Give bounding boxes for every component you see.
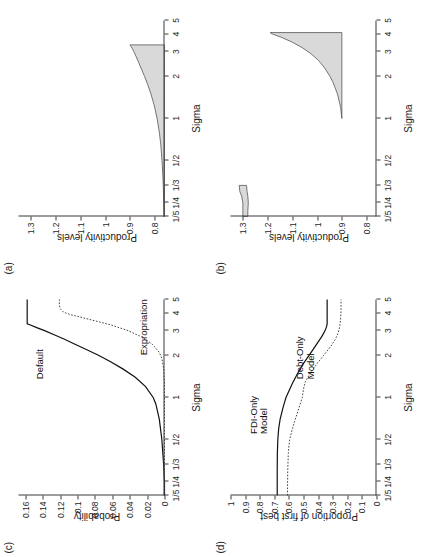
- y-tick: [242, 216, 243, 220]
- panel-a-y-title: Productivity levels: [24, 232, 170, 243]
- y-tick: [77, 495, 78, 499]
- x-tick: [164, 298, 168, 299]
- panel-b-y-axis: [230, 215, 376, 216]
- x-tick: [164, 480, 168, 481]
- panel-d-plot: FDI-Only Model Debt-Only Model 1/51/41/3…: [230, 299, 376, 495]
- panel-d: (d) FDI-Only Model Debt-Only Model 1/51/…: [212, 279, 423, 557]
- x-tick: [164, 438, 168, 439]
- y-tick: [105, 216, 106, 220]
- y-tick: [60, 495, 61, 499]
- y-tick: [129, 495, 130, 499]
- y-tick-label: 1: [225, 501, 235, 506]
- series-line: [277, 299, 327, 495]
- x-tick-label: 1/4: [170, 476, 180, 488]
- x-tick-label: 2: [170, 352, 180, 357]
- y-tick: [288, 495, 289, 499]
- x-tick: [164, 463, 168, 464]
- x-tick: [164, 159, 168, 160]
- panel-d-tag: (d): [214, 541, 225, 553]
- panel-a: (a) 1/51/41/31/2123450.80.911.11.21.3 Si…: [0, 0, 211, 278]
- x-tick: [164, 354, 168, 355]
- x-tick-label: 1/5: [382, 489, 392, 501]
- x-tick: [164, 201, 168, 202]
- x-tick: [376, 184, 380, 185]
- x-tick-label: 2: [170, 73, 180, 78]
- x-tick: [164, 184, 168, 185]
- y-tick: [25, 495, 26, 499]
- y-tick-label: 0: [159, 501, 169, 506]
- x-tick-label: 3: [382, 328, 392, 333]
- x-tick: [164, 50, 168, 51]
- x-tick-label: 1/5: [382, 210, 392, 222]
- y-tick: [55, 216, 56, 220]
- y-tick: [80, 216, 81, 220]
- y-tick: [94, 495, 95, 499]
- x-tick-label: 5: [170, 18, 180, 23]
- curve-label-debt-only-model: Debt-Only Model: [294, 336, 315, 379]
- x-tick: [376, 159, 380, 160]
- y-tick-label: 0: [371, 501, 381, 506]
- y-tick: [347, 495, 348, 499]
- y-tick: [164, 495, 165, 499]
- x-tick-label: 2: [382, 73, 392, 78]
- x-tick-label: 1/4: [382, 197, 392, 209]
- x-tick-label: 4: [382, 31, 392, 36]
- x-tick-label: 2: [382, 352, 392, 357]
- panel-b-y-title: Productivity levels: [236, 232, 382, 243]
- x-tick: [164, 117, 168, 118]
- y-tick: [292, 216, 293, 220]
- panel-b: (b) 1/51/41/31/2123450.80.911.11.21.3 Si…: [212, 0, 423, 278]
- x-tick: [376, 480, 380, 481]
- figure-canvas: (a) 1/51/41/31/2123450.80.911.11.21.3 Si…: [0, 0, 423, 557]
- x-tick: [164, 396, 168, 397]
- x-tick: [164, 33, 168, 34]
- x-tick-label: 1: [170, 395, 180, 400]
- x-tick: [376, 354, 380, 355]
- y-tick-label: 1: [312, 222, 322, 227]
- y-tick: [317, 216, 318, 220]
- curve-label-fdi-only-model: FDI-Only Model: [248, 395, 269, 433]
- x-tick-label: 1: [382, 116, 392, 121]
- x-tick-label: 1/2: [170, 433, 180, 445]
- x-tick-label: 5: [170, 297, 180, 302]
- x-tick-label: 1/3: [170, 179, 180, 191]
- x-tick: [376, 312, 380, 313]
- panel-a-svg: [18, 20, 164, 216]
- y-tick: [154, 216, 155, 220]
- y-tick: [303, 495, 304, 499]
- y-tick: [332, 495, 333, 499]
- x-tick-label: 3: [170, 49, 180, 54]
- x-tick: [376, 463, 380, 464]
- y-tick: [245, 495, 246, 499]
- y-tick: [147, 495, 148, 499]
- x-tick-label: 1: [382, 395, 392, 400]
- x-tick-label: 1/3: [382, 179, 392, 191]
- shaded-region: [239, 185, 248, 216]
- y-tick-label: 1: [100, 222, 110, 227]
- x-tick-label: 5: [382, 18, 392, 23]
- y-tick: [259, 495, 260, 499]
- x-tick-label: 1/2: [170, 154, 180, 166]
- panel-a-plot: 1/51/41/31/2123450.80.911.11.21.3: [18, 20, 164, 216]
- panel-c-plot: Default Expropriation 1/51/41/31/2123450…: [18, 299, 164, 495]
- y-tick: [341, 216, 342, 220]
- x-tick-label: 1/4: [382, 476, 392, 488]
- x-tick-label: 3: [170, 328, 180, 333]
- panel-d-y-title: Proportion of first best: [236, 511, 382, 522]
- x-tick-label: 1/4: [170, 197, 180, 209]
- x-tick: [164, 329, 168, 330]
- x-tick: [164, 75, 168, 76]
- rotated-figure: (a) 1/51/41/31/2123450.80.911.11.21.3 Si…: [0, 0, 423, 557]
- y-tick: [112, 495, 113, 499]
- x-tick-label: 1: [170, 116, 180, 121]
- y-tick: [376, 495, 377, 499]
- shaded-region: [129, 44, 164, 216]
- x-tick: [376, 329, 380, 330]
- panel-c: (c) Default Expropriation 1/51/41/31/212…: [0, 279, 211, 557]
- panel-c-tag: (c): [2, 541, 13, 553]
- panel-b-tag: (b): [214, 262, 225, 274]
- x-tick: [376, 50, 380, 51]
- x-tick-label: 4: [170, 31, 180, 36]
- panel-b-plot: 1/51/41/31/2123450.80.911.11.21.3: [230, 20, 376, 216]
- x-tick: [164, 312, 168, 313]
